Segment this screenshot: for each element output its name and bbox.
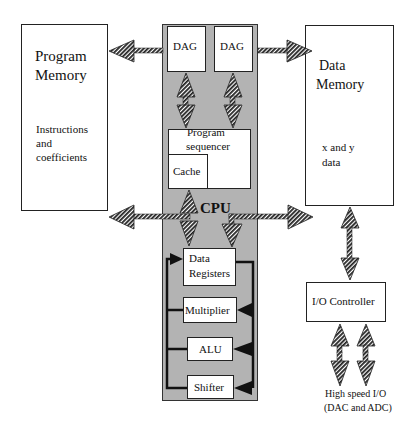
arrow-program-bus bbox=[109, 190, 198, 246]
arrow-dag1-sequencer bbox=[177, 73, 195, 128]
arrow-dag1-to-program-memory bbox=[109, 40, 163, 62]
arrow-io-out-2 bbox=[357, 324, 375, 386]
arrow-io-out-1 bbox=[331, 324, 349, 386]
feedback-lines bbox=[167, 259, 253, 388]
arrows-layer bbox=[0, 0, 420, 430]
arrow-dag2-to-data-memory bbox=[258, 40, 312, 62]
arrow-data-memory-io bbox=[341, 207, 359, 280]
arrow-data-bus bbox=[222, 205, 313, 247]
arrow-dag2-sequencer bbox=[224, 73, 242, 128]
feedback-arrowheads bbox=[170, 253, 252, 395]
